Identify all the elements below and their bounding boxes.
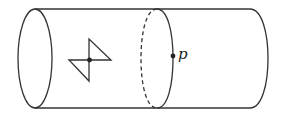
- cylinder-left-end: [18, 9, 52, 108]
- cylinder-right-end: [250, 9, 268, 108]
- point-p-label: p: [178, 45, 188, 63]
- cross-section-back-dashed: [141, 9, 157, 108]
- cross-section-front-solid: [157, 9, 173, 108]
- bowtie-center-point: [87, 58, 92, 63]
- point-p-marker: [171, 54, 176, 59]
- cylinder-diagram: p: [0, 0, 281, 114]
